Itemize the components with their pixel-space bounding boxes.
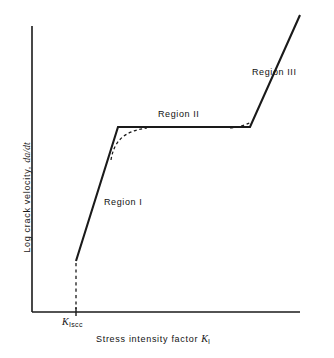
y-axis-title: Log crack velocity, da/dt [21,108,32,288]
annotation-region-i: Region I [104,198,142,207]
kiscc-subscript: Iscc [69,321,83,328]
plot-canvas [0,0,334,358]
annotation-region-iii: Region III [252,68,297,77]
crack-velocity-curve [76,15,300,261]
x-axis-tick-label-kiscc: KIscc [62,317,83,328]
x-axis-title: Stress intensity factor KI [96,334,210,345]
x-axis-title-subscript: I [208,338,210,345]
x-axis-title-symbol: K [201,333,208,344]
x-axis-title-text: Stress intensity factor [96,334,201,344]
y-axis-title-symbol: da/dt [21,142,32,163]
annotation-region-ii: Region II [158,110,199,119]
y-axis-title-text: Log crack velocity, [22,163,32,253]
stress-corrosion-cracking-figure: Region I Region II Region III KIscc Stre… [0,0,334,358]
